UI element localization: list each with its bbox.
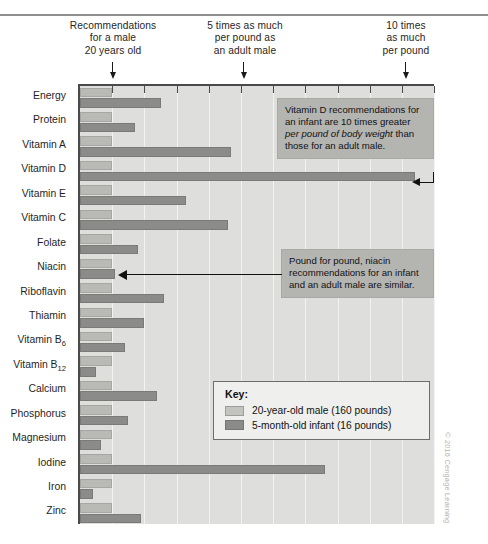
- bar-adult-male: [80, 332, 112, 342]
- category-label: Thiamin: [0, 304, 72, 328]
- bar-infant: [80, 172, 415, 182]
- category-label: Iodine: [0, 451, 72, 475]
- axis-tick: [434, 86, 435, 93]
- bar-infant: [80, 514, 141, 524]
- header-callout-10x: 10 times as much per pound: [336, 20, 476, 57]
- category-label: Iron: [0, 475, 72, 499]
- bar-infant: [80, 98, 161, 108]
- category-label: Vitamin B6: [0, 328, 72, 352]
- annotation-vitamin-d: Vitamin D recommendations for an infant …: [277, 98, 434, 159]
- legend-label-infant: 5-month-old infant (16 pounds): [252, 420, 391, 431]
- legend-key: Key: 20-year-old male (160 pounds) 5-mon…: [213, 381, 430, 440]
- bar-infant: [80, 123, 135, 133]
- category-label: Phosphorus: [0, 402, 72, 426]
- bar-infant: [80, 294, 164, 304]
- top-divider-rule: [0, 14, 488, 16]
- bar-row: [80, 306, 434, 330]
- category-label: Magnesium: [0, 426, 72, 450]
- legend-swatch-adult-male: [225, 406, 244, 416]
- header-callout-1x: Recommendations for a male 20 years old: [40, 20, 186, 57]
- down-arrow-icon: [401, 62, 410, 79]
- bar-row: [80, 501, 434, 525]
- legend-title: Key:: [225, 388, 420, 400]
- bar-adult-male: [80, 454, 112, 464]
- bar-infant: [80, 391, 157, 401]
- bar-infant: [80, 220, 228, 230]
- annotation-niacin: Pound for pound, niacin recommendations …: [281, 249, 434, 298]
- bar-infant: [80, 269, 115, 279]
- down-arrow-icon: [108, 62, 117, 79]
- bar-adult-male: [80, 308, 112, 318]
- bar-infant: [80, 367, 96, 377]
- bar-row: [80, 184, 434, 208]
- bar-adult-male: [80, 283, 112, 293]
- figure: Recommendations for a male 20 years old …: [0, 0, 488, 544]
- bar-adult-male: [80, 430, 112, 440]
- bar-adult-male: [80, 234, 112, 244]
- legend-label-adult-male: 20-year-old male (160 pounds): [252, 405, 391, 416]
- bar-infant: [80, 343, 125, 353]
- bar-adult-male: [80, 136, 112, 146]
- category-label: Vitamin D: [0, 157, 72, 181]
- gridline: [434, 86, 435, 524]
- bar-infant: [80, 147, 231, 157]
- category-label: Vitamin E: [0, 182, 72, 206]
- bar-adult-male: [80, 356, 112, 366]
- category-label: Energy: [0, 84, 72, 108]
- category-label: Calcium: [0, 377, 72, 401]
- bar-adult-male: [80, 405, 112, 415]
- bar-row: [80, 330, 434, 354]
- legend-item: 5-month-old infant (16 pounds): [225, 420, 420, 431]
- bar-infant: [80, 196, 186, 206]
- header-callout-5x: 5 times as much per pound as an adult ma…: [172, 20, 318, 57]
- category-label: Vitamin A: [0, 133, 72, 157]
- category-label: Zinc: [0, 499, 72, 523]
- bar-adult-male: [80, 259, 112, 269]
- legend-item: 20-year-old male (160 pounds): [225, 405, 420, 416]
- bar-adult-male: [80, 112, 112, 122]
- annotation-leader-vitamin-d: [412, 172, 434, 186]
- down-arrow-icon: [239, 62, 248, 79]
- category-label: Vitamin C: [0, 206, 72, 230]
- bar-row: [80, 208, 434, 232]
- category-label: Niacin: [0, 255, 72, 279]
- bar-row: [80, 159, 434, 183]
- bar-adult-male: [80, 381, 112, 391]
- copyright-credit: © 2016 Cengage Learning: [443, 432, 452, 523]
- bar-infant: [80, 318, 144, 328]
- bar-adult-male: [80, 88, 112, 98]
- bar-adult-male: [80, 161, 112, 171]
- category-axis-labels: EnergyProteinVitamin AVitamin DVitamin E…: [0, 84, 72, 524]
- bar-adult-male: [80, 185, 112, 195]
- legend-swatch-infant: [225, 420, 244, 430]
- category-label: Riboflavin: [0, 280, 72, 304]
- bar-infant: [80, 245, 138, 255]
- category-label: Protein: [0, 108, 72, 132]
- bar-infant: [80, 416, 128, 426]
- bar-infant: [80, 489, 93, 499]
- bar-adult-male: [80, 503, 112, 513]
- annotation-leader-niacin: [118, 269, 282, 280]
- bar-infant: [80, 440, 101, 450]
- bar-row: [80, 355, 434, 379]
- bar-row: [80, 477, 434, 501]
- bar-adult-male: [80, 479, 112, 489]
- category-label: Vitamin B12: [0, 353, 72, 377]
- category-label: Folate: [0, 231, 72, 255]
- bar-row: [80, 453, 434, 477]
- bar-adult-male: [80, 210, 112, 220]
- bar-infant: [80, 465, 325, 475]
